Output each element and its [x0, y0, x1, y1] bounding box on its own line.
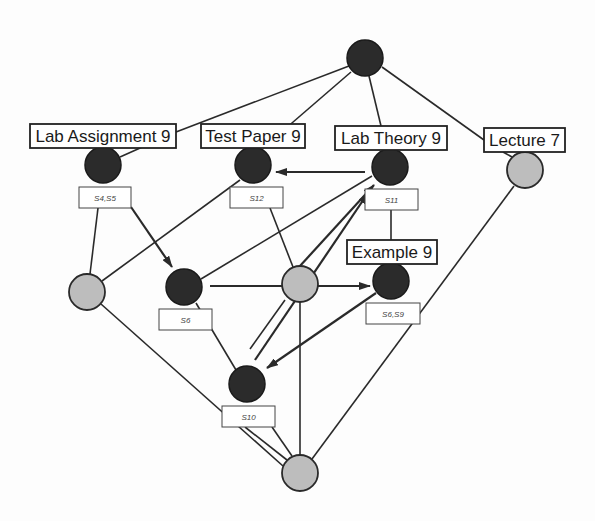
sublabel-lab-theory-9: S11 — [365, 189, 418, 210]
sublabel-text: S10 — [241, 413, 256, 422]
edge-s10-to-bottom — [245, 427, 287, 460]
node-s10[interactable] — [229, 366, 265, 402]
label-text: Example 9 — [352, 243, 432, 262]
node-lecture-7[interactable] — [507, 152, 543, 188]
sublabel-s6: S6 — [159, 309, 212, 330]
sublabel-text: S4,S5 — [94, 194, 116, 203]
label-text: Lab Theory 9 — [341, 129, 441, 148]
edge-top-to-lab-assignment-9 — [176, 66, 349, 132]
sublabel-text: S6,S9 — [382, 310, 404, 319]
edge-lab-assignment-9-to-left-gray — [90, 208, 98, 274]
node-lab-assignment-9[interactable] — [85, 147, 121, 183]
label-text: Lab Assignment 9 — [35, 127, 170, 146]
sublabel-text: S12 — [249, 194, 264, 203]
label-lab-theory-9[interactable]: Lab Theory 9 — [335, 126, 447, 150]
label-lecture-7[interactable]: Lecture 7 — [484, 128, 565, 152]
edge-test-paper-9-to-center-gray — [270, 208, 293, 267]
label-lab-assignment-9[interactable]: Lab Assignment 9 — [30, 124, 176, 148]
node-lab-theory-9[interactable] — [372, 149, 408, 185]
sublabel-s10: S10 — [222, 406, 275, 427]
label-test-paper-9[interactable]: Test Paper 9 — [201, 124, 305, 148]
concept-lattice-diagram: Lab Assignment 9Test Paper 9Lab Theory 9… — [0, 0, 595, 521]
sublabel-lab-assignment-9: S4,S5 — [79, 187, 131, 208]
sublabel-example-9: S6,S9 — [366, 303, 420, 324]
node-test-paper-9[interactable] — [235, 147, 271, 183]
label-text: Test Paper 9 — [205, 127, 300, 146]
sublabel-text: S11 — [385, 196, 399, 205]
nodes-layer — [69, 40, 543, 491]
label-text: Lecture 7 — [489, 131, 560, 150]
node-s6[interactable] — [166, 269, 202, 305]
arrow-lab-assignment-9-to-s6 — [131, 207, 172, 267]
node-left-gray[interactable] — [69, 274, 105, 310]
sublabel-text: S6 — [181, 316, 191, 325]
edge-top-to-lab-theory-9 — [369, 76, 381, 126]
edge-s10-to-bottom-2 — [272, 427, 292, 456]
label-example-9[interactable]: Example 9 — [347, 240, 437, 264]
node-example-9[interactable] — [373, 263, 409, 299]
node-top[interactable] — [347, 40, 383, 76]
arrow-example-9-to-s10 — [267, 293, 376, 368]
node-bottom[interactable] — [282, 455, 318, 491]
sublabel-test-paper-9: S12 — [230, 187, 283, 208]
node-center-gray[interactable] — [282, 266, 318, 302]
